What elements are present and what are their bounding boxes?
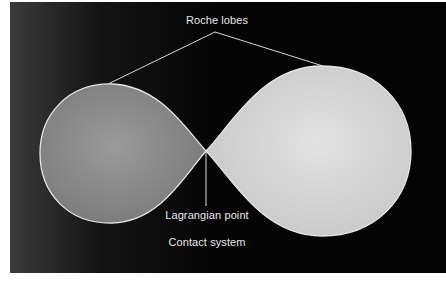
left-roche-lobe bbox=[40, 84, 206, 223]
roche-lobes-label: Roche lobes bbox=[186, 14, 248, 26]
lagrangian-point-label: Lagrangian point bbox=[165, 209, 249, 221]
contact-system-caption: Contact system bbox=[168, 236, 245, 248]
